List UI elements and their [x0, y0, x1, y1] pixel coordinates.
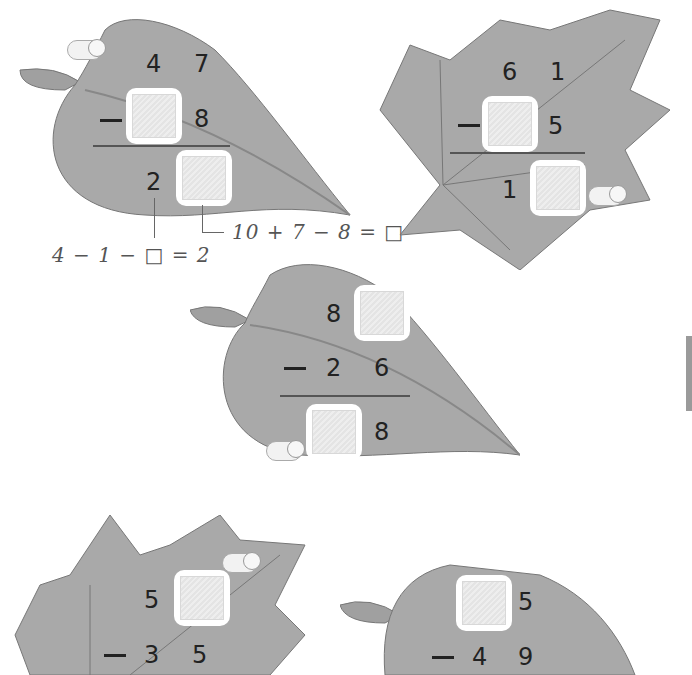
digit: 6 — [374, 356, 389, 380]
blank-box[interactable] — [456, 575, 512, 631]
digit: 2 — [326, 356, 341, 380]
digit: 9 — [518, 645, 533, 669]
digit: 5 — [548, 114, 563, 138]
digit: 8 — [326, 302, 341, 326]
hint-arrow — [202, 232, 224, 233]
minus-sign — [100, 119, 122, 122]
blank-box[interactable] — [174, 570, 230, 626]
caterpillar-icon — [67, 40, 103, 60]
minus-sign — [432, 656, 454, 659]
hint-arrow — [154, 198, 155, 238]
digit: 3 — [144, 643, 159, 667]
digit: 4 — [146, 52, 161, 76]
leaf-problem-4 — [10, 515, 310, 675]
blank-box[interactable] — [354, 285, 410, 341]
blank-box[interactable] — [126, 88, 182, 144]
digit: 1 — [502, 178, 517, 202]
digit: 6 — [502, 60, 517, 84]
minus-sign — [104, 654, 126, 657]
digit: 8 — [194, 107, 209, 131]
caterpillar-icon — [266, 441, 302, 461]
sum-line — [280, 395, 410, 397]
digit: 4 — [472, 645, 487, 669]
digit: 2 — [146, 170, 161, 194]
digit: 1 — [550, 60, 565, 84]
leaf-shape-icon — [10, 515, 310, 675]
digit: 5 — [144, 588, 159, 612]
hint-arrow — [202, 205, 203, 232]
blank-box[interactable] — [176, 150, 232, 206]
blank-box[interactable] — [530, 160, 586, 216]
minus-sign — [284, 367, 306, 370]
blank-box[interactable] — [306, 404, 362, 460]
sum-line — [450, 152, 585, 154]
caterpillar-icon — [222, 553, 258, 573]
caterpillar-icon — [588, 186, 624, 206]
digit: 5 — [192, 643, 207, 667]
tens-hint: 4 − 1 − □ = 2 — [52, 243, 211, 267]
digit: 8 — [374, 420, 389, 444]
digit: 5 — [518, 590, 533, 614]
blank-box[interactable] — [482, 96, 538, 152]
sum-line — [93, 145, 230, 147]
digit: 7 — [194, 52, 209, 76]
page-edge-tab — [686, 336, 692, 411]
minus-sign — [458, 124, 480, 127]
